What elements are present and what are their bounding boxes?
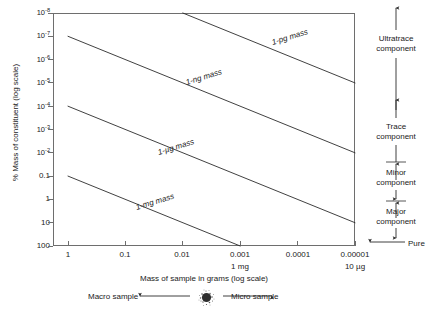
plot-area — [53, 13, 355, 246]
macro-sample-label: Macro sample — [88, 292, 138, 301]
sample-granule-icon — [197, 288, 216, 307]
component-line2: component — [376, 178, 416, 187]
y-tick-label: 10-8 — [37, 9, 50, 17]
x-tick-label: 0.0001 — [286, 250, 310, 259]
chart-root: 10-8 10-7 10-6 10-5 10-4 10-3 10-2 0.1 1… — [0, 0, 431, 311]
component-line1: Major — [386, 207, 406, 216]
component-label-ultratrace: Ultratrace component — [362, 34, 430, 53]
x-tick-label: 0.1 — [119, 250, 130, 259]
component-label-minor: Minor component — [362, 168, 430, 187]
y-tick-label: 10-3 — [37, 126, 50, 134]
component-label-major: Major component — [362, 207, 430, 226]
component-line2: component — [376, 217, 416, 226]
micro-sample-label: Micro sample — [231, 292, 279, 301]
y-tick-label: 10-6 — [37, 56, 50, 64]
component-line2: component — [376, 44, 416, 53]
component-line2: component — [376, 132, 416, 141]
x-tick-label: 1 — [66, 250, 70, 259]
component-line1: Trace — [386, 122, 406, 131]
component-line1: Ultratrace — [379, 34, 414, 43]
y-tick-label: 1 — [46, 195, 50, 203]
y-tick-label: 100 — [37, 242, 50, 250]
x-axis-title: Mass of sample in grams (log scale) — [53, 274, 355, 283]
component-label-trace: Trace component — [362, 122, 430, 141]
x-tick-sublabel: 10 µg — [345, 262, 365, 271]
y-tick-label: 10 — [41, 219, 50, 227]
y-tick-label: 0.1 — [39, 172, 50, 180]
x-tick-sublabel: 1 mg — [231, 262, 249, 271]
y-tick-label: 10-4 — [37, 103, 50, 111]
y-axis-title: % Mass of constituent (log scale) — [11, 48, 20, 198]
y-tick-label: 10-5 — [37, 79, 50, 87]
x-tick-label: 0.00001 — [341, 250, 370, 259]
pure-label: Pure — [408, 239, 425, 248]
x-tick-label: 0.001 — [230, 250, 250, 259]
y-axis: 10-8 10-7 10-6 10-5 10-4 10-3 10-2 0.1 1… — [0, 0, 50, 311]
component-line1: Minor — [386, 168, 406, 177]
y-tick-label: 10-7 — [37, 32, 50, 40]
x-tick-label: 0.01 — [174, 250, 190, 259]
y-tick-label: 10-2 — [37, 149, 50, 157]
